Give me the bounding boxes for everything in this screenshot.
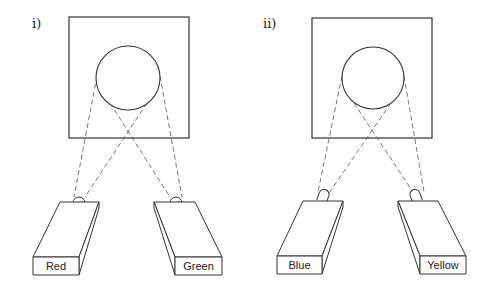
projector-yellow: Yellow [398,188,466,274]
circle-object [96,46,160,110]
projector-diagram: i)RedGreenii)BlueYellow [0,0,484,294]
circle-object [342,47,404,109]
projector-label: Red [46,260,66,272]
projector-blue: Blue [277,188,343,274]
projector-label: Green [183,260,214,272]
projector-red: Red [33,197,99,275]
projector-green: Green [154,197,222,275]
panel-label: ii) [263,16,276,31]
projector-label: Yellow [427,259,458,271]
panel-label: i) [32,16,41,31]
projector-label: Blue [288,259,310,271]
panel-ii: ii)BlueYellow [263,16,466,274]
panel-i: i)RedGreen [32,16,222,275]
